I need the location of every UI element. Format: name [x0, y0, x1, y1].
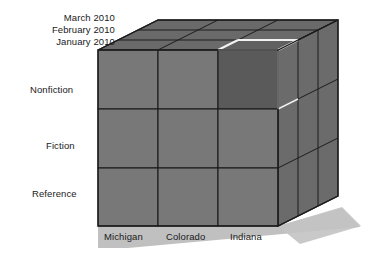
data-cube-figure: March 2010 February 2010 January 2010 No…: [0, 0, 367, 259]
cell-michigan-nonfiction: [98, 50, 158, 109]
time-label-march: March 2010: [64, 12, 115, 23]
location-label-colorado: Colorado: [166, 231, 205, 242]
cube-right-face: [278, 20, 338, 226]
cube-front-face: [98, 50, 278, 226]
cell-colorado-nonfiction: [158, 50, 218, 109]
location-label-indiana: Indiana: [230, 231, 262, 242]
cell-indiana-fiction: [218, 109, 278, 168]
time-label-february: February 2010: [52, 24, 115, 35]
category-label-reference: Reference: [32, 188, 77, 199]
category-label-nonfiction: Nonfiction: [30, 84, 73, 95]
category-label-fiction: Fiction: [46, 140, 75, 151]
cell-colorado-fiction: [158, 109, 218, 168]
cell-colorado-reference: [158, 168, 218, 226]
location-label-michigan: Michigan: [104, 231, 143, 242]
cell-michigan-reference: [98, 168, 158, 226]
cell-indiana-reference: [218, 168, 278, 226]
cell-michigan-fiction: [98, 109, 158, 168]
time-label-january: January 2010: [56, 36, 115, 47]
cube-graphic: [0, 0, 367, 259]
cell-indiana-nonfiction-highlighted: [218, 50, 278, 109]
